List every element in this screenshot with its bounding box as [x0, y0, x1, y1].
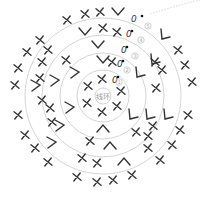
- single-crochet-icon: [96, 8, 104, 16]
- increase-icon: [31, 80, 40, 91]
- single-crochet-icon: [108, 58, 116, 66]
- single-crochet-icon: [184, 111, 192, 119]
- single-crochet-icon: [117, 87, 125, 95]
- single-crochet-icon: [46, 104, 54, 112]
- round-number: 3: [133, 53, 136, 59]
- start-dotted-line: [150, 0, 200, 14]
- single-crochet-icon: [93, 159, 101, 167]
- single-crochet-icon: [63, 16, 71, 24]
- single-crochet-icon: [113, 102, 121, 110]
- single-crochet-icon: [99, 24, 107, 32]
- increase-icon: [164, 109, 173, 119]
- increase-icon: [97, 56, 109, 63]
- slip-stitch-icon: [126, 46, 129, 49]
- chain-icon: 0: [131, 14, 137, 24]
- single-crochet-icon: [36, 36, 44, 44]
- single-crochet-icon: [93, 178, 101, 186]
- increase-icon: [47, 137, 56, 148]
- single-crochet-icon: [21, 131, 29, 139]
- slip-stitch-icon: [141, 15, 144, 18]
- increase-icon: [112, 8, 124, 15]
- single-crochet-icon: [44, 46, 52, 54]
- single-crochet-icon: [36, 74, 44, 82]
- single-crochet-icon: [156, 156, 164, 164]
- single-crochet-icon: [81, 10, 89, 18]
- slip-stitch-icon: [131, 30, 134, 33]
- single-crochet-icon: [158, 66, 166, 74]
- crochet-chart: 00000 12345 线环: [0, 0, 209, 206]
- single-crochet-icon: [83, 99, 91, 107]
- single-crochet-icon: [86, 137, 94, 145]
- single-crochet-icon: [168, 141, 176, 149]
- single-crochet-icon: [38, 58, 46, 66]
- single-crochet-icon: [152, 84, 160, 92]
- increase-icon: [136, 67, 145, 77]
- decrease-icon: [104, 142, 116, 149]
- increase-icon: [70, 67, 79, 78]
- single-crochet-icon: [78, 154, 86, 162]
- round-number: 2: [125, 67, 128, 73]
- single-crochet-icon: [174, 46, 182, 54]
- single-crochet-icon: [176, 126, 184, 134]
- single-crochet-icon: [84, 82, 92, 90]
- increase-icon: [129, 109, 138, 119]
- chain-starts: 00000: [112, 14, 143, 85]
- decrease-icon: [118, 158, 130, 165]
- single-crochet-icon: [14, 64, 22, 72]
- single-crochet-icon: [109, 176, 117, 184]
- single-crochet-icon: [48, 118, 56, 126]
- center-magic-ring-label: 线环: [96, 92, 110, 101]
- single-crochet-icon: [11, 81, 19, 89]
- single-crochet-icon: [73, 173, 81, 181]
- single-crochet-icon: [44, 158, 52, 166]
- increase-icon: [79, 28, 91, 35]
- increase-icon: [146, 109, 155, 119]
- single-crochet-icon: [188, 78, 196, 86]
- round-number: 1: [117, 79, 120, 85]
- round-number: 4: [139, 37, 142, 43]
- single-crochet-icon: [98, 108, 106, 116]
- single-crochet-icon: [31, 144, 39, 152]
- increase-icon: [92, 41, 104, 48]
- increase-icon: [161, 29, 170, 39]
- single-crochet-icon: [144, 132, 152, 140]
- round-number: 5: [146, 23, 149, 29]
- decrease-icon: [97, 125, 109, 132]
- single-crochet-icon: [128, 171, 136, 179]
- slip-stitch-icon: [122, 60, 125, 63]
- single-crochet-icon: [14, 111, 22, 119]
- single-crochet-icon: [144, 144, 152, 152]
- increase-icon: [50, 75, 59, 86]
- increase-icon: [65, 102, 74, 113]
- single-crochet-icon: [132, 128, 140, 136]
- single-crochet-icon: [181, 61, 189, 69]
- single-crochet-icon: [62, 56, 70, 64]
- single-crochet-icon: [23, 48, 31, 56]
- single-crochet-icon: [98, 75, 106, 83]
- single-crochet-icon: [113, 28, 121, 36]
